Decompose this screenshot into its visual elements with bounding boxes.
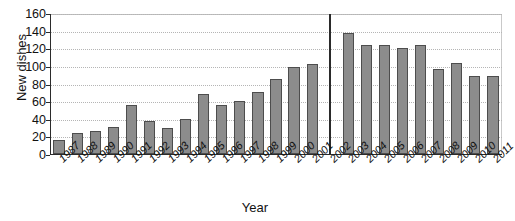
x-axis-label: Year	[0, 200, 510, 215]
y-tick-label: 20	[14, 131, 46, 144]
divider-line	[329, 14, 331, 154]
y-tick-label: 40	[14, 114, 46, 127]
bar-series	[50, 14, 502, 154]
y-tick-label: 120	[14, 43, 46, 56]
y-tick-label: 60	[14, 96, 46, 109]
y-tick-label: 80	[14, 79, 46, 92]
y-tickmark	[46, 155, 50, 156]
bar-2006	[397, 48, 408, 154]
y-tick-label: 160	[14, 8, 46, 21]
bar-2005	[379, 45, 390, 154]
y-tick-label: 100	[14, 61, 46, 74]
y-tick-label: 0	[14, 149, 46, 162]
bar-2003	[343, 33, 354, 154]
bar-2007	[415, 45, 426, 154]
bar-2004	[361, 45, 372, 154]
plot-area	[50, 14, 502, 155]
y-tick-label: 140	[14, 26, 46, 39]
y-axis-tick-labels: 020406080100120140160	[12, 0, 46, 221]
